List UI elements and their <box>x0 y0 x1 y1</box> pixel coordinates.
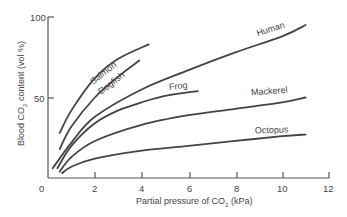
x-tick-2: 2 <box>92 183 97 194</box>
y-tick-100: 100 <box>30 12 46 23</box>
x-tick-10: 10 <box>277 183 288 194</box>
label-frog: Frog <box>169 80 188 92</box>
x-axis-label: Partial pressure of CO2 (kPa) <box>136 196 252 208</box>
x-tick-4: 4 <box>139 183 144 194</box>
x-tick-12: 12 <box>323 183 334 194</box>
label-octopus: Octopus <box>255 124 289 135</box>
y-axis-label: Blood CO2 content (vol %) <box>16 41 28 146</box>
x-tick-0: 0 <box>39 183 44 194</box>
chart: 100 50 0 2 4 6 8 10 12 Partial pressure … <box>0 0 347 217</box>
plot-area <box>0 0 347 217</box>
x-tick-6: 6 <box>187 183 192 194</box>
curve-octopus <box>62 135 306 174</box>
x-tick-8: 8 <box>234 183 239 194</box>
y-tick-50: 50 <box>34 93 45 104</box>
